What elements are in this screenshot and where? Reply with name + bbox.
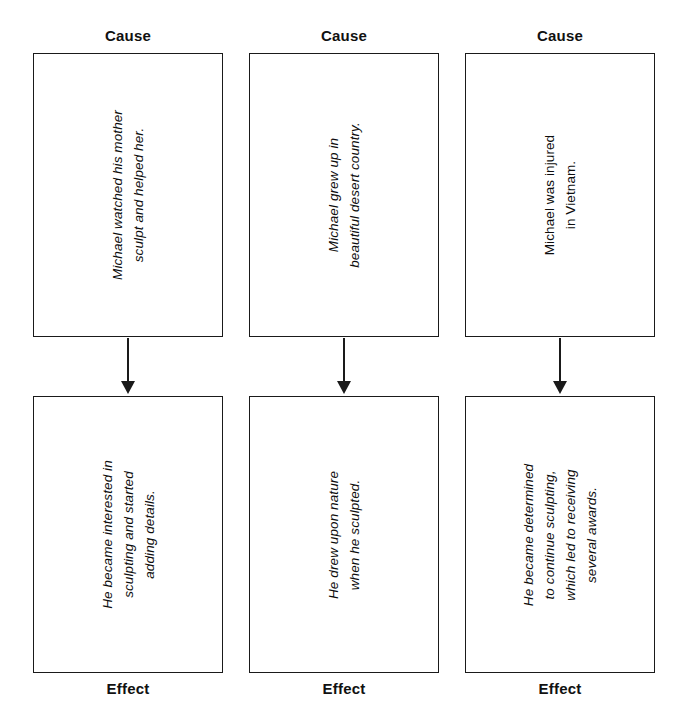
cause-box-3: Michael was injured in Vietnam. xyxy=(465,53,655,337)
arrow-head-icon-1 xyxy=(121,381,135,394)
cause-effect-column-2: Cause Michael grew up in beautiful deser… xyxy=(249,0,439,720)
cause-box-1: Michael watched his mother sculpt and he… xyxy=(33,53,223,337)
effect-text-wrap-3: He became determined to continue sculpti… xyxy=(466,397,654,672)
cause-effect-column-3: Cause Michael was injured in Vietnam. He… xyxy=(465,0,655,720)
effect-text-1: He became interested in sculpting and st… xyxy=(96,460,159,609)
effect-box-3: He became determined to continue sculpti… xyxy=(465,396,655,673)
effect-box-2: He drew upon nature when he sculpted. xyxy=(249,396,439,673)
cause-heading-1: Cause xyxy=(33,27,223,44)
effect-heading-1: Effect xyxy=(33,680,223,697)
cause-box-2: Michael grew up in beautiful desert coun… xyxy=(249,53,439,337)
cause-text-2: Michael grew up in beautiful desert coun… xyxy=(323,122,365,268)
effect-heading-3: Effect xyxy=(465,680,655,697)
cause-text-wrap-1: Michael watched his mother sculpt and he… xyxy=(34,54,222,336)
effect-text-2: He drew upon nature when he sculpted. xyxy=(323,471,365,599)
arrow-line-2 xyxy=(343,338,345,385)
cause-heading-3: Cause xyxy=(465,27,655,44)
cause-effect-diagram: Cause Michael watched his mother sculpt … xyxy=(0,0,690,720)
effect-text-3: He became determined to continue sculpti… xyxy=(518,463,602,605)
effect-text-wrap-1: He became interested in sculpting and st… xyxy=(34,397,222,672)
effect-box-1: He became interested in sculpting and st… xyxy=(33,396,223,673)
cause-text-3: Michael was injured in Vietnam. xyxy=(539,135,581,255)
cause-text-wrap-2: Michael grew up in beautiful desert coun… xyxy=(250,54,438,336)
cause-heading-2: Cause xyxy=(249,27,439,44)
arrow-head-icon-2 xyxy=(337,381,351,394)
effect-text-wrap-2: He drew upon nature when he sculpted. xyxy=(250,397,438,672)
cause-effect-column-1: Cause Michael watched his mother sculpt … xyxy=(33,0,223,720)
effect-heading-2: Effect xyxy=(249,680,439,697)
arrow-line-3 xyxy=(559,338,561,385)
arrow-line-1 xyxy=(127,338,129,385)
arrow-head-icon-3 xyxy=(553,381,567,394)
cause-text-1: Michael watched his mother sculpt and he… xyxy=(107,110,149,280)
cause-text-wrap-3: Michael was injured in Vietnam. xyxy=(466,54,654,336)
